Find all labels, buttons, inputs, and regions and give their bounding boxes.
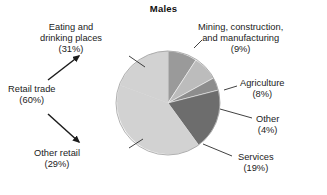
- slice-label-agriculture-line1: Agriculture: [240, 78, 284, 88]
- slice-label-eating-drinking-pct: (31%): [40, 44, 102, 55]
- leader-line-services: [203, 144, 232, 156]
- slice-label-other-line1: Other: [256, 114, 279, 124]
- slice-label-eating-drinking-line2: drinking places: [40, 33, 102, 44]
- slice-label-services-pct: (19%): [238, 163, 274, 174]
- leader-line-other: [220, 109, 252, 118]
- slice-label-other-retail-pct: (29%): [34, 159, 80, 170]
- slice-label-agriculture: Agriculture (8%): [240, 78, 284, 100]
- slice-label-mining-pct: (9%): [198, 44, 283, 55]
- slice-label-mining: Mining, construction, and manufacturing …: [198, 22, 283, 56]
- slice-label-other: Other (4%): [256, 114, 279, 136]
- slice-label-services-line1: Services: [238, 152, 274, 162]
- slice-label-agriculture-pct: (8%): [240, 89, 284, 100]
- slice-label-eating-drinking-line1: Eating and: [49, 22, 93, 32]
- slice-label-other-pct: (4%): [256, 125, 279, 136]
- slice-label-services: Services (19%): [238, 152, 274, 174]
- slice-label-mining-line2: and manufacturing: [198, 33, 283, 44]
- leader-line-agriculture: [224, 86, 237, 90]
- group-label-retail-trade: Retail trade (60%): [8, 84, 56, 106]
- arrow-retail-to-eating-drinking: [48, 56, 79, 80]
- slice-label-other-retail-line1: Other retail: [34, 148, 80, 158]
- group-label-retail-trade-pct: (60%): [8, 95, 56, 106]
- slice-label-other-retail: Other retail (29%): [34, 148, 80, 170]
- arrow-retail-to-other-retail: [48, 114, 79, 142]
- pie-chart-figure: Males Eating and drinkin: [0, 0, 327, 195]
- slice-label-eating-drinking: Eating and drinking places (31%): [40, 22, 102, 56]
- slice-label-mining-line1: Mining, construction,: [198, 22, 283, 32]
- group-label-retail-trade-text: Retail trade: [8, 84, 56, 94]
